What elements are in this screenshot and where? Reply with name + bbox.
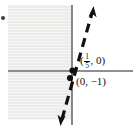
fraction-numerator: 1 [84, 53, 90, 61]
dashed-line-layer [0, 0, 138, 129]
x-label-fraction: 15 [84, 53, 90, 71]
x-label-open-paren: ( [80, 54, 84, 66]
point-y-intercept [67, 75, 73, 81]
figure-container: (15, 0) (0, −1) [0, 0, 138, 129]
x-intercept-label: (15, 0) [80, 53, 105, 71]
y-intercept-label: (0, −1) [76, 76, 106, 87]
point-x-intercept [69, 67, 75, 73]
fraction-denominator: 5 [84, 62, 90, 70]
x-label-close-paren: ) [101, 54, 105, 66]
